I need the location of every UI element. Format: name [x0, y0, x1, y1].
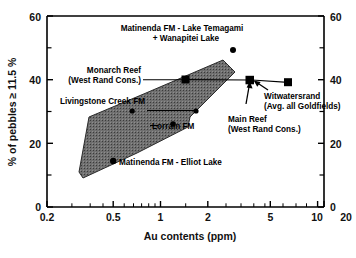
- chart-figure: 60 40 20 0 60 40 20 0 0.2 0.5 1 2 5 10 2…: [0, 0, 356, 258]
- y-axis-title: % of pebbles ≥ 11.5 %: [6, 57, 18, 166]
- marker-matinenda-lake-temagami[interactable]: [230, 47, 236, 53]
- annotation-mainreef-line2: (West Rand Cons.): [228, 125, 301, 134]
- x-tick-label-20: 20: [340, 211, 352, 223]
- annotation-matinenda-elliot-lake: Matinenda FM - Elliot Lake: [119, 158, 222, 167]
- x-tick-label-5: 5: [267, 211, 273, 223]
- annotation-witwatersrand-line1: Witwatersrand: [264, 92, 320, 101]
- y-tick-label-60: 60: [29, 11, 41, 23]
- annotation-monarch-line2: (West Rand Cons.): [68, 76, 141, 85]
- x-tick-label-10: 10: [311, 211, 323, 223]
- y-right-tick-label-0: 0: [330, 201, 336, 213]
- x-tick-label-1: 1: [158, 211, 164, 223]
- marker-matinenda-elliot-lake[interactable]: [110, 158, 116, 164]
- annotation-witwatersrand-line2: (Avg. all Goldfields): [264, 102, 341, 111]
- y-tick-label-40: 40: [29, 74, 41, 86]
- x-axis-title: Au contents (ppm): [144, 230, 237, 242]
- marker-livingstone-creek-low[interactable]: [130, 108, 135, 113]
- annotation-mainreef-line1: Main Reef: [228, 115, 267, 124]
- y-right-tick-label-20: 20: [330, 138, 342, 150]
- marker-livingstone-creek-high[interactable]: [193, 108, 198, 113]
- annotation-temagami-line2: + Wanapitei Lake: [153, 34, 220, 43]
- marker-main-reef[interactable]: [246, 76, 255, 85]
- annotation-temagami-line1: Matinenda FM - Lake Temagami: [121, 24, 244, 33]
- y-right-tick-label-60: 60: [330, 11, 342, 23]
- annotation-lorrain-fm: Lorrain FM: [152, 122, 194, 131]
- x-tick-label-2: 2: [205, 211, 211, 223]
- scatter-plot-svg: 60 40 20 0 60 40 20 0 0.2 0.5 1 2 5 10 2…: [0, 0, 356, 258]
- marker-monarch-reef[interactable]: [182, 76, 190, 84]
- x-tick-label-0-5: 0.5: [106, 211, 121, 223]
- marker-witwatersrand-average[interactable]: [284, 78, 292, 86]
- annotation-livingstone-creek-fm: Livingstone Creek FM: [60, 97, 145, 106]
- annotation-monarch-line1: Monarch Reef: [87, 66, 141, 75]
- y-tick-label-20: 20: [29, 138, 41, 150]
- x-tick-label-0-2: 0.2: [40, 211, 55, 223]
- y-right-tick-label-40: 40: [330, 74, 342, 86]
